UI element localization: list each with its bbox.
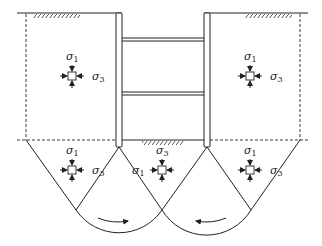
stress-element-right-bottom: [238, 159, 262, 182]
ground-hatch-right: [245, 14, 292, 18]
stress-element-left-top: [60, 65, 84, 88]
label-sigma3-right-top: σ3: [270, 71, 283, 84]
retaining-walls: [116, 13, 210, 147]
stress-element-left-bottom: [60, 159, 84, 182]
struts: [122, 38, 204, 95]
stress-element-right-top: [238, 65, 262, 88]
ground-hatch-left: [33, 14, 80, 18]
label-sigma1-left-top: σ1: [66, 51, 79, 64]
label-sigma1-right-bottom: σ1: [244, 145, 257, 158]
right-wall: [204, 13, 210, 147]
dashed-boundaries: [17, 14, 308, 140]
label-sigma3-left-top: σ3: [92, 71, 105, 84]
label-sigma1-center: σ1: [132, 165, 145, 178]
label-sigma3-right-bottom: σ3: [270, 165, 283, 178]
left-wall: [116, 13, 122, 147]
excavation-diagram: [0, 0, 322, 246]
rotation-arrow-right: [196, 218, 226, 222]
label-sigma1-right-top: σ1: [244, 51, 257, 64]
label-sigma3-left-bottom: σ3: [92, 165, 105, 178]
rotation-arrow-left: [98, 218, 128, 222]
label-sigma1-left-bottom: σ1: [66, 145, 79, 158]
label-sigma3-center: σ3: [156, 145, 169, 158]
stress-element-center: [150, 159, 174, 182]
